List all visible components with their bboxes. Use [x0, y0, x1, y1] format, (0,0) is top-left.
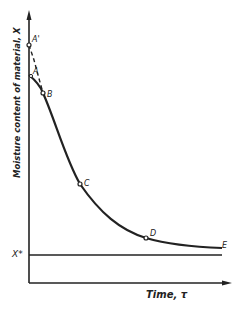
point-d — [144, 236, 148, 240]
label-a: A — [32, 67, 38, 76]
label-x-star: X* — [11, 249, 23, 259]
x-axis-arrow-icon — [222, 281, 232, 286]
label-b: B — [47, 90, 53, 99]
drying-curve-chart: A' A B C D E X* Time, τ Moisture content… — [0, 0, 240, 316]
y-axis-label: Moisture content of material, X — [12, 27, 22, 178]
drying-curve — [29, 75, 222, 248]
point-a-prime — [27, 43, 31, 47]
label-c: C — [84, 179, 90, 188]
point-c — [78, 182, 82, 186]
y-axis-arrow-icon — [27, 10, 32, 20]
label-e: E — [222, 241, 228, 250]
x-axis-label: Time, τ — [146, 289, 188, 300]
label-d: D — [150, 229, 156, 238]
point-b — [41, 91, 45, 95]
label-a-prime: A' — [31, 35, 40, 44]
